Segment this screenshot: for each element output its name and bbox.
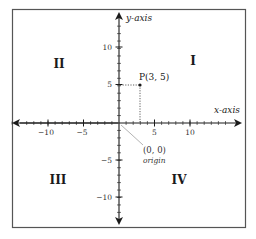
origin-label: origin xyxy=(143,156,166,165)
x-tick-label: −5 xyxy=(76,128,87,137)
quadrant-II-label: II xyxy=(53,57,65,71)
y-tick-label: 5 xyxy=(107,80,112,89)
y-tick-label: −5 xyxy=(101,156,112,165)
quadrant-IV-label: IV xyxy=(172,173,188,187)
quadrant-I-label: I xyxy=(190,54,196,68)
x-axis-label: x-axis xyxy=(214,105,240,115)
x-tick-label: 5 xyxy=(152,128,157,137)
quadrant-III-label: III xyxy=(50,173,67,187)
diagram-frame xyxy=(13,10,246,228)
y-axis-label: y-axis xyxy=(125,13,152,23)
point-p-label: P(3, 5) xyxy=(139,72,169,82)
origin-coords-label: (0, 0) xyxy=(143,145,166,155)
x-tick-label: −10 xyxy=(38,128,54,137)
point-p-marker xyxy=(138,83,141,86)
coordinate-plane-diagram: −10 −5 5 10 10 5 −5 −10 y-axis x-axis I … xyxy=(0,0,256,239)
y-tick-label: −10 xyxy=(96,193,112,202)
y-tick-label: 10 xyxy=(102,43,112,52)
x-tick-label: 10 xyxy=(185,128,195,137)
